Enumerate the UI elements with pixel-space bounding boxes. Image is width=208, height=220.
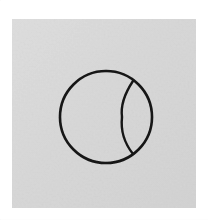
figure-canvas: Circle with inner lens arc <box>0 0 208 220</box>
figure-root: Circle with inner lens arc <box>0 0 208 220</box>
gray-panel <box>12 19 196 208</box>
